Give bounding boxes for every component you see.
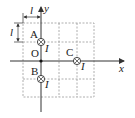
origin-dot bbox=[39, 59, 42, 62]
wire-c: C I bbox=[66, 46, 86, 72]
wire-b-label: B bbox=[31, 65, 38, 77]
wire-a-label: A bbox=[30, 28, 38, 40]
x-axis-label: x bbox=[118, 62, 124, 74]
cross-icon bbox=[37, 38, 44, 45]
wire-c-current: I bbox=[80, 60, 86, 72]
cross-icon bbox=[37, 75, 44, 82]
magnetic-field-diagram: x y O l l A I B I C bbox=[0, 0, 135, 118]
cross-icon bbox=[73, 57, 80, 64]
vertical-dimension: l bbox=[10, 23, 23, 42]
wire-a-current: I bbox=[44, 42, 50, 54]
svg-text:l: l bbox=[30, 4, 33, 16]
wire-c-label: C bbox=[66, 46, 73, 58]
y-axis-label: y bbox=[43, 2, 49, 14]
svg-text:l: l bbox=[10, 26, 13, 38]
wire-b-current: I bbox=[44, 78, 50, 90]
origin-label: O bbox=[31, 47, 39, 59]
horizontal-dimension: l bbox=[23, 4, 40, 23]
